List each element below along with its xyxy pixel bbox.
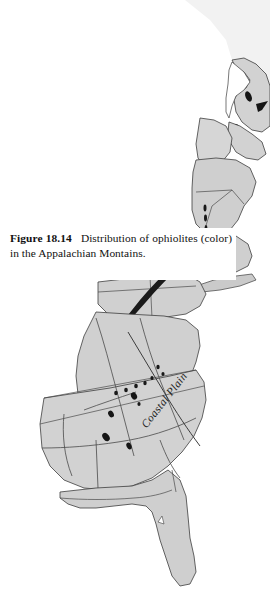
- ophiolite-body: [150, 376, 153, 380]
- ophiolite-body: [156, 365, 159, 370]
- ophiolite-body: [143, 381, 146, 385]
- ophiolite-body: [134, 384, 138, 388]
- figure-caption: Figure 18.14Distribution of ophiolites (…: [10, 231, 232, 260]
- ophiolite-body: [137, 402, 140, 406]
- ophiolite-body: [114, 391, 118, 396]
- figure-number-label: Figure 18.14: [10, 232, 72, 244]
- ophiolite-body: [204, 215, 207, 222]
- ophiolite-body: [161, 372, 164, 376]
- appalachian-ophiolite-map: [0, 0, 270, 597]
- figure-container: Coastal Plain Figure 18.14Distribution o…: [0, 0, 270, 597]
- ophiolite-body: [124, 388, 128, 393]
- ophiolite-body: [204, 205, 207, 212]
